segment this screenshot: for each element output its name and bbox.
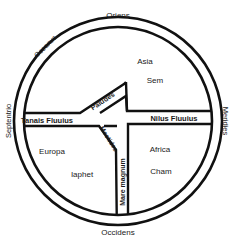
label-oriens: Oriens: [106, 11, 130, 20]
label-maeotides: Meotides: [99, 125, 120, 153]
label-septentrio: Septentrio: [4, 104, 13, 138]
paludes-lower-shore: [100, 96, 236, 113]
label-europa: Europa: [39, 147, 65, 156]
label-meridies: Meridies: [221, 107, 230, 136]
label-tanais: Tanais Fluuius: [21, 116, 73, 125]
label-africa: Africa: [150, 145, 171, 154]
asia-corner-shore: [126, 82, 127, 111]
label-cham: Cham: [150, 167, 172, 176]
label-nilus: Nilus Fluuius: [150, 114, 197, 123]
label-mare-magnum: Mare magnum: [119, 158, 127, 205]
label-asia: Asia: [137, 57, 153, 66]
label-oceanus: Oceanus: [33, 34, 58, 59]
label-sem: Sem: [147, 76, 164, 85]
t-o-map: Oriens Occidens Septentrio Meridies Ocea…: [0, 0, 236, 238]
label-iaphet: Iaphet: [71, 170, 94, 179]
label-occidens: Occidens: [101, 228, 134, 237]
label-paludes: Paludes: [90, 90, 116, 111]
